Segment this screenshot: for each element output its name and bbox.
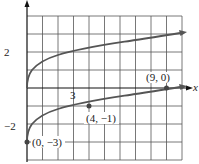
y-axis-arrow-icon bbox=[25, 0, 30, 7]
x-axis-label: x bbox=[193, 82, 198, 93]
point-4-neg1 bbox=[87, 104, 92, 109]
point-0-neg3 bbox=[25, 140, 30, 145]
x-axis-arrow-icon bbox=[186, 86, 193, 91]
y-tick-label-2: 2 bbox=[4, 47, 10, 58]
annotation-0-neg3: (0, −3) bbox=[32, 137, 62, 148]
curve-sqrt-arrow-icon bbox=[179, 30, 187, 36]
y-tick-label-neg2: −2 bbox=[4, 121, 16, 132]
x-tick-label-3: 3 bbox=[70, 90, 76, 101]
annotation-4-neg1: (4, −1) bbox=[86, 113, 116, 124]
point-9-0 bbox=[164, 86, 169, 91]
curve-shifted-arrow-icon bbox=[179, 84, 187, 90]
annotation-9-0: (9, 0) bbox=[146, 72, 170, 83]
